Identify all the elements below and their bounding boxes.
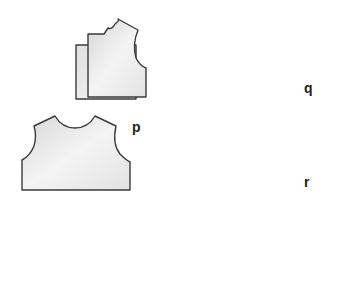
bodice-front-stacked (76, 19, 146, 99)
bodice-front-front-layer (88, 19, 146, 97)
bodice-back-piece (22, 116, 130, 190)
pattern-diagram (0, 0, 345, 297)
label-q: q (304, 80, 313, 96)
label-p: p (132, 119, 141, 135)
label-r: r (304, 174, 309, 190)
bodice-back-p (22, 116, 130, 190)
